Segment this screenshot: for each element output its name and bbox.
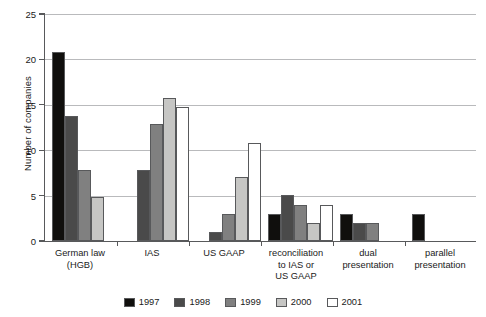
legend-swatch-1998 xyxy=(174,298,185,307)
legend-swatch-2001 xyxy=(327,298,338,307)
bar-1999 xyxy=(78,170,91,241)
legend-label: 1997 xyxy=(139,297,160,307)
bar-1998 xyxy=(281,195,294,241)
x-axis-label: IAS xyxy=(116,248,188,283)
legend-item-1998[interactable]: 1998 xyxy=(174,297,210,307)
bar-2001 xyxy=(320,205,333,241)
plot-area: 0510152025 xyxy=(44,14,476,242)
bar-2001 xyxy=(176,107,189,241)
legend-item-2001[interactable]: 2001 xyxy=(327,297,363,307)
legend-label: 2001 xyxy=(342,297,363,307)
bar-2001 xyxy=(248,143,261,241)
bar-group xyxy=(45,14,117,241)
bar-1997 xyxy=(340,214,353,241)
x-axis-group-tick xyxy=(117,241,118,246)
legend-label: 2000 xyxy=(291,297,312,307)
bar-group xyxy=(261,14,333,241)
x-axis-label: German law (HGB) xyxy=(44,248,116,283)
bar-group xyxy=(189,14,261,241)
y-tick-label-15: 15 xyxy=(25,99,36,110)
bar-2000 xyxy=(235,177,248,241)
bar-1997 xyxy=(52,52,65,241)
bar-group xyxy=(117,14,189,241)
bar-groups xyxy=(45,14,476,241)
bar-2000 xyxy=(307,223,320,241)
bar-1997 xyxy=(268,214,281,241)
x-axis-labels: German law (HGB)IASUS GAAPreconciliation… xyxy=(44,248,476,283)
bar-group xyxy=(405,14,477,241)
y-tick-label-0: 0 xyxy=(31,236,36,247)
y-tick-label-20: 20 xyxy=(25,54,36,65)
legend-item-2000[interactable]: 2000 xyxy=(276,297,312,307)
x-axis-label: reconciliation to IAS or US GAAP xyxy=(260,248,332,283)
y-tick-label-10: 10 xyxy=(25,145,36,156)
x-axis-label: US GAAP xyxy=(188,248,260,283)
chart-legend: 19971998199920002001 xyxy=(0,297,486,307)
x-axis-label: dual presentation xyxy=(332,248,404,283)
y-tick-label-5: 5 xyxy=(31,190,36,201)
legend-swatch-1997 xyxy=(124,298,135,307)
bar-1999 xyxy=(222,214,235,241)
bar-1999 xyxy=(150,124,163,241)
legend-label: 1998 xyxy=(189,297,210,307)
bar-1998 xyxy=(353,223,366,241)
legend-swatch-2000 xyxy=(276,298,287,307)
bar-1997 xyxy=(412,214,425,241)
y-axis-title: Number of companies xyxy=(22,49,33,199)
legend-swatch-1999 xyxy=(225,298,236,307)
bar-1998 xyxy=(65,116,78,241)
x-axis-group-tick xyxy=(333,241,334,246)
x-axis-group-tick xyxy=(189,241,190,246)
x-axis-label: parallel presentation xyxy=(404,248,476,283)
legend-label: 1999 xyxy=(240,297,261,307)
bar-1998 xyxy=(209,232,222,241)
x-axis-group-tick xyxy=(261,241,262,246)
bar-1999 xyxy=(294,205,307,241)
legend-item-1997[interactable]: 1997 xyxy=(124,297,160,307)
bar-2000 xyxy=(91,197,104,241)
legend-item-1999[interactable]: 1999 xyxy=(225,297,261,307)
bar-2000 xyxy=(163,98,176,241)
y-tick-label-25: 25 xyxy=(25,9,36,20)
bar-chart-figure: Number of companies 0510152025 German la… xyxy=(0,0,486,317)
x-axis-group-tick xyxy=(405,241,406,246)
bar-group xyxy=(333,14,405,241)
bar-1999 xyxy=(366,223,379,241)
bar-1998 xyxy=(137,170,150,241)
